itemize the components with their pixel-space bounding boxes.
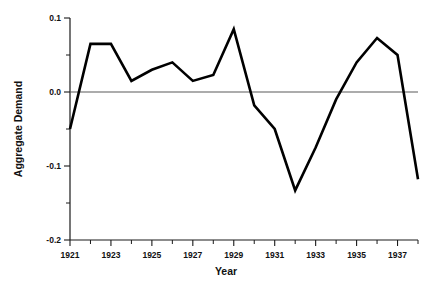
y-tick-label: -0.2 [46, 235, 61, 245]
x-tick-label: 1925 [142, 250, 161, 260]
x-tick-label: 1921 [61, 250, 80, 260]
x-axis-title: Year [215, 265, 237, 277]
x-tick-label: 1937 [388, 250, 407, 260]
x-tick-label: 1931 [265, 250, 284, 260]
x-tick-label: 1935 [347, 250, 366, 260]
y-tick-label: -0.1 [46, 161, 61, 171]
chart-background [0, 0, 431, 289]
x-axis-tick-labels: 192119231925192719291931193319351937 [61, 250, 408, 260]
y-tick-label: 0.0 [49, 87, 61, 97]
x-tick-label: 1927 [183, 250, 202, 260]
x-tick-label: 1923 [101, 250, 120, 260]
x-tick-label: 1933 [306, 250, 325, 260]
y-tick-label: 0.1 [49, 13, 61, 23]
chart-figure: 0.10.0-0.1-0.2 1921192319251927192919311… [0, 0, 431, 289]
y-axis-title: Aggregate Demand [12, 81, 24, 177]
aggregate-demand-line-chart: 0.10.0-0.1-0.2 1921192319251927192919311… [0, 0, 431, 289]
x-tick-label: 1929 [224, 250, 243, 260]
